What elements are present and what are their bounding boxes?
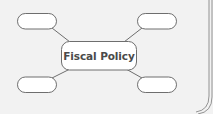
node-bottom-left [18,77,57,93]
connector-top-right [124,28,142,42]
connector-top-left [52,28,70,42]
node-top-left [18,14,57,30]
concept-web-diagram: Fiscal Policy [0,0,213,114]
center-node-label: Fiscal Policy [61,41,137,70]
node-top-right [138,14,177,30]
page-edge-border [196,0,212,114]
node-bottom-right [138,77,177,93]
connector-bottom-left [52,69,70,78]
